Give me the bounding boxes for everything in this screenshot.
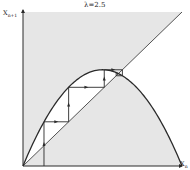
y-axis-label: Xn+1: [3, 9, 17, 18]
y-axis-arrow-icon: [21, 9, 25, 13]
lambda-label: λ=2.5: [84, 1, 105, 9]
cobweb-diagram: [0, 0, 190, 170]
x-axis-label: Xn: [180, 160, 188, 169]
